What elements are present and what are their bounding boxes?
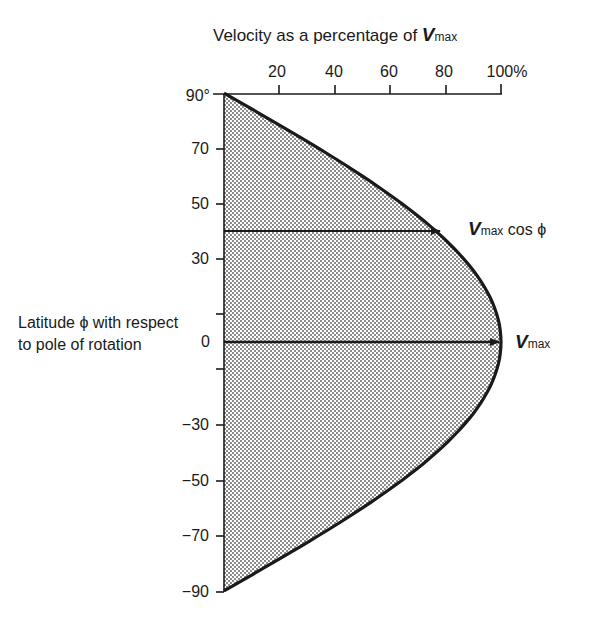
y-tick-label: 90° (160, 87, 210, 105)
x-tick-label: 20 (268, 63, 286, 81)
x-tick-label: 80 (435, 63, 453, 81)
x-tick-label: 60 (380, 63, 398, 81)
vmax-cos-suffix: cos ϕ (503, 221, 546, 238)
vmax-cos-label: Vmax cos ϕ (468, 218, 546, 240)
title-subscript: max (435, 30, 458, 44)
title-text: Velocity as a percentage of (213, 26, 422, 45)
vmax-subscript: max (528, 337, 551, 351)
chart-title: Velocity as a percentage of Vmax (213, 24, 457, 46)
y-tick-label: −70 (159, 527, 209, 545)
title-symbol: V (422, 24, 435, 45)
y-tick-label: 70 (159, 140, 209, 158)
x-tick-label: 40 (325, 63, 343, 81)
y-tick-label: −30 (159, 416, 209, 434)
vmax-label: Vmax (515, 331, 550, 353)
y-tick-label: −90 (159, 583, 209, 601)
x-tick-label: 100% (487, 63, 528, 81)
y-tick-label: 30 (159, 250, 209, 268)
x-axis (213, 84, 502, 94)
y-tick-label: −50 (159, 472, 209, 490)
y-axis (216, 94, 224, 592)
y-axis-label: Latitude ϕ with respect to pole of rotat… (18, 312, 188, 356)
y-tick-label: 50 (159, 195, 209, 213)
vmax-cos-symbol: V (468, 218, 481, 239)
vmax-cos-subscript: max (481, 224, 504, 238)
vmax-symbol: V (515, 331, 528, 352)
